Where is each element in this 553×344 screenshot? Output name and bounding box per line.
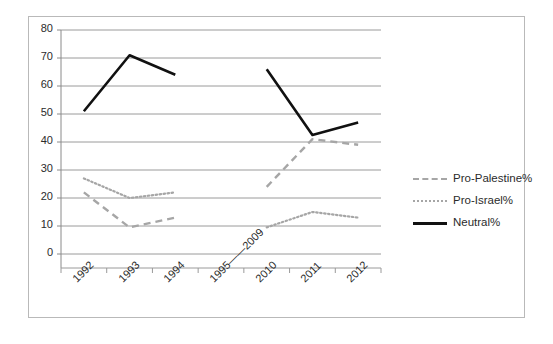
legend-item-label: Pro-Israel% [453, 194, 513, 206]
y-axis-tick-label: 80 [23, 22, 53, 34]
y-axis-tick-label: 0 [23, 246, 53, 258]
y-axis-tick-label: 40 [23, 134, 53, 146]
dashed-line-swatch [413, 172, 447, 184]
series-line-neutral [267, 69, 358, 135]
chart-legend: Pro-Palestine%Pro-Israel%Neutral% [413, 167, 553, 233]
legend-item[interactable]: Pro-Palestine% [413, 167, 553, 189]
series-line-neutral [84, 55, 175, 111]
legend-item[interactable]: Pro-Israel% [413, 189, 553, 211]
solid-line-swatch [413, 216, 447, 228]
legend-item-label: Neutral% [453, 216, 500, 228]
y-axis-tick-label: 20 [23, 190, 53, 202]
series-line-pro-israel [267, 212, 358, 227]
y-axis-tick-label: 50 [23, 106, 53, 118]
series-line-pro-israel [84, 178, 175, 198]
legend-item-label: Pro-Palestine% [453, 172, 532, 184]
legend-item[interactable]: Neutral% [413, 211, 553, 233]
y-axis-tick-label: 10 [23, 218, 53, 230]
chart-frame: 80706050403020100 1992199319941995——2009… [28, 16, 525, 318]
y-axis-tick-label: 60 [23, 78, 53, 90]
y-axis-tick-label: 30 [23, 162, 53, 174]
y-axis-tick-label: 70 [23, 50, 53, 62]
series-line-pro-palestine [267, 139, 358, 187]
dotted-line-swatch [413, 194, 447, 206]
